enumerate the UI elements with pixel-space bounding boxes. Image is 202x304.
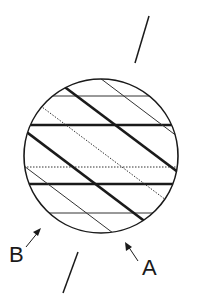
diagonal-line-thin-bottom [20,163,125,242]
diagonal-line-thick-2 [24,130,155,229]
label-a: A [142,257,157,279]
diagram-canvas [0,0,202,304]
bottom-axis-line [63,252,78,293]
arrow-a [125,242,138,261]
arrow-b [26,228,41,247]
top-axis-line [135,16,149,63]
hatching-group [0,69,202,242]
label-b: B [9,244,24,266]
